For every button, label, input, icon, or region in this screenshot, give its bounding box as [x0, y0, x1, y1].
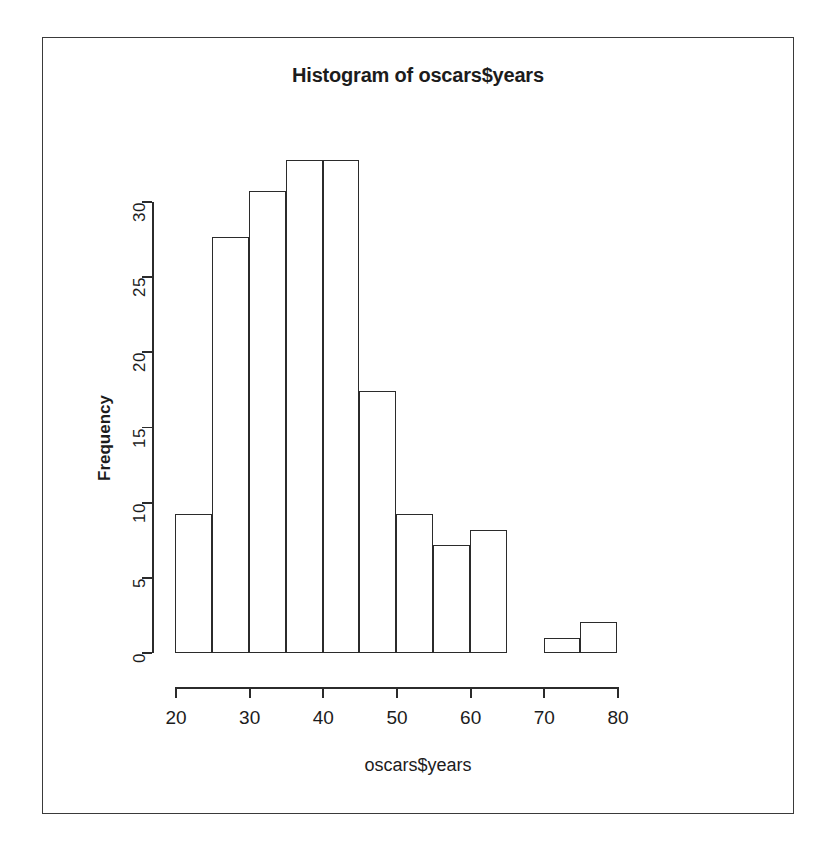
histogram-bar — [212, 237, 249, 653]
histogram-bar — [175, 514, 212, 653]
x-axis-tick — [175, 687, 177, 698]
y-axis-tick-label: 10 — [130, 503, 150, 523]
histogram-bar — [433, 545, 470, 653]
histogram-bar — [580, 622, 617, 653]
x-axis-tick-label: 60 — [460, 707, 481, 729]
x-axis-title: oscars$years — [0, 755, 836, 776]
y-axis-tick-label: 20 — [130, 352, 150, 372]
histogram-bar — [286, 160, 323, 653]
x-axis-tick — [617, 687, 619, 698]
x-axis: 20304050607080 — [176, 687, 618, 689]
chart-title: Histogram of oscars$years — [0, 64, 836, 87]
y-axis-tick-label: 30 — [130, 202, 150, 222]
x-axis-tick — [396, 687, 398, 698]
y-axis-tick-label: 15 — [130, 428, 150, 448]
x-axis-tick — [543, 687, 545, 698]
y-axis: 051015202530 — [152, 202, 154, 653]
y-axis-title: Frequency — [95, 395, 115, 481]
x-axis-tick-label: 30 — [239, 707, 260, 729]
histogram-bar — [544, 638, 581, 653]
histogram-bar — [249, 191, 286, 653]
y-axis-tick-label: 5 — [130, 578, 150, 588]
y-axis-tick-label: 25 — [130, 277, 150, 297]
x-axis-tick — [470, 687, 472, 698]
screenshot-canvas: Histogram of oscars$years 051015202530 2… — [0, 0, 836, 857]
x-axis-tick — [249, 687, 251, 698]
x-axis-tick-label: 20 — [165, 707, 186, 729]
histogram-bar — [359, 391, 396, 653]
histogram-bar — [396, 514, 433, 653]
plot-area — [176, 160, 618, 653]
histogram-bar — [470, 530, 507, 653]
x-axis-tick-label: 50 — [386, 707, 407, 729]
y-axis-tick-label: 0 — [130, 653, 150, 663]
histogram-bar — [323, 160, 360, 653]
x-axis-tick-label: 40 — [313, 707, 334, 729]
x-axis-tick — [322, 687, 324, 698]
x-axis-tick-label: 80 — [607, 707, 628, 729]
x-axis-tick-label: 70 — [534, 707, 555, 729]
